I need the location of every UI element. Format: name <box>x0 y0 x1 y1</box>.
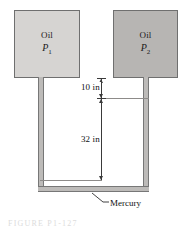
tube-right-leg <box>143 77 149 187</box>
pressure-symbol-left: P1 <box>42 42 52 58</box>
tube-left-leg <box>38 77 44 187</box>
pressure-symbol-right: P2 <box>141 42 151 58</box>
mercury-leader-line <box>91 192 109 204</box>
manometer-figure: Oil P1 Oil P2 10 in 32 in Mercury FIGURE… <box>0 0 184 230</box>
oil-label-right: Oil <box>139 30 151 41</box>
pressure-subscript-right: 2 <box>147 48 151 56</box>
oil-reservoir-right: Oil P2 <box>113 10 178 78</box>
pressure-subscript-left: 1 <box>48 48 52 56</box>
mercury-label: Mercury <box>110 198 141 208</box>
mercury-level-line-right <box>101 98 149 99</box>
dimension-arrow-up-32in <box>99 99 103 103</box>
dimension-label-10in: 10 in <box>80 82 101 92</box>
dimension-line-32in <box>101 98 102 180</box>
figure-caption-cutoff: FIGURE P1-127 <box>8 219 78 226</box>
dimension-arrow-down-32in <box>99 176 103 180</box>
dimension-label-32in: 32 in <box>80 134 101 144</box>
oil-label-left: Oil <box>41 30 53 41</box>
oil-reservoir-left: Oil P1 <box>14 10 80 78</box>
mercury-level-line-left <box>40 180 102 181</box>
